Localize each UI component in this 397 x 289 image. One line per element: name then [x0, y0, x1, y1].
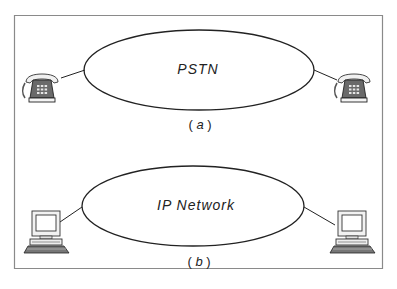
pstn-label: PSTN: [177, 61, 218, 77]
caption-a-close: ): [207, 117, 211, 132]
caption-a-open: (: [188, 117, 192, 132]
caption-b: ( b ): [187, 254, 210, 269]
caption-a-letter: a: [196, 117, 203, 132]
diagram-canvas: [0, 0, 397, 289]
ip-network-label: IP Network: [157, 197, 235, 213]
caption-a: ( a ): [188, 117, 211, 132]
caption-b-letter: b: [195, 254, 202, 269]
link-right-phone: [314, 70, 337, 80]
link-left-computer: [60, 207, 82, 222]
telephone-icon: [335, 74, 370, 102]
computer-icon: [330, 211, 375, 253]
caption-b-open: (: [187, 254, 191, 269]
link-right-computer: [304, 207, 335, 225]
link-left-phone: [61, 70, 85, 78]
caption-b-close: ): [206, 254, 210, 269]
computer-icon: [24, 211, 69, 253]
telephone-icon: [23, 74, 58, 102]
